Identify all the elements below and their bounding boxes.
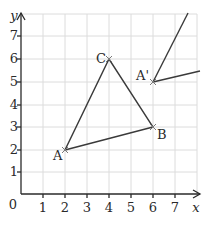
x-tick-3: 3 <box>83 200 91 215</box>
x-tick-labels: 1 2 3 4 5 6 7 x <box>39 200 200 215</box>
x-tick-2: 2 <box>61 200 69 215</box>
origin-label: 0 <box>9 197 17 212</box>
point-label-b: B <box>157 127 167 142</box>
coordinate-diagram: 1 2 3 4 5 6 7 x 1 2 3 4 5 6 7 y 0 A B C … <box>0 0 212 226</box>
image-lines <box>153 13 200 82</box>
line-a-prime-right <box>153 71 200 82</box>
point-label-a-prime: A' <box>135 68 149 83</box>
point-label-a: A <box>52 148 63 163</box>
y-tick-5: 5 <box>10 74 18 89</box>
grid <box>21 14 197 194</box>
y-tick-6: 6 <box>10 51 18 66</box>
y-tick-3: 3 <box>10 119 18 134</box>
x-tick-7: 7 <box>171 200 179 215</box>
x-tick-6: 6 <box>149 200 157 215</box>
x-tick-1: 1 <box>39 200 47 215</box>
y-tick-4: 4 <box>10 97 18 112</box>
x-axis-label: x <box>192 200 200 215</box>
point-label-c: C <box>96 51 106 66</box>
y-tick-7: 7 <box>10 28 18 43</box>
x-tick-4: 4 <box>105 200 113 215</box>
x-tick-5: 5 <box>127 200 135 215</box>
y-axis-label: y <box>9 8 18 23</box>
y-tick-1: 1 <box>10 164 18 179</box>
y-tick-2: 2 <box>10 142 18 157</box>
y-tick-labels: 1 2 3 4 5 6 7 y 0 <box>9 8 18 212</box>
line-a-prime-upper <box>153 13 188 82</box>
